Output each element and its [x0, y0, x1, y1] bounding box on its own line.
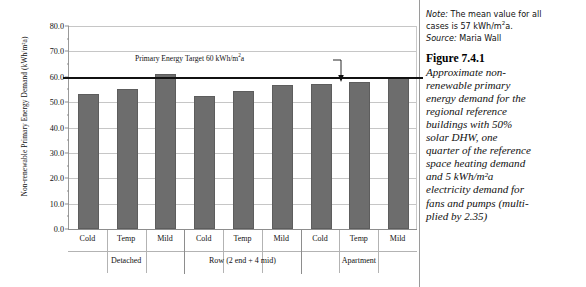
note-text-2-tail: a. — [505, 21, 513, 31]
y-tick-label-70.0: 70.0 — [50, 47, 64, 56]
bar — [194, 96, 215, 229]
caption-line: and 5 kWh/m²a — [426, 170, 580, 183]
target-label-text: Primary Energy Target 60 kWh/m — [135, 54, 238, 63]
x-axis-group-separator — [301, 230, 302, 274]
caption-line: buildings with 50% — [426, 118, 580, 131]
x-axis-label-cold-3: Cold — [184, 234, 223, 243]
y-tick-label-40.0: 40.0 — [50, 123, 64, 132]
y-tick-label-50.0: 50.0 — [50, 98, 64, 107]
bar — [311, 84, 332, 229]
x-axis-label-temp-7: Temp — [339, 234, 378, 243]
bar — [117, 89, 138, 229]
plot-area: 0.010.020.030.040.050.060.070.080.0 Prim… — [68, 26, 417, 229]
y-axis-title: Non-renewable Primary Energy Demand (kWh… — [20, 7, 29, 227]
caption-panel: Note: The mean value for all cases is 57… — [419, 0, 586, 287]
caption-line: electricity demand for — [426, 183, 580, 196]
x-axis-group-separator — [184, 230, 185, 274]
chart-panel: Non-renewable Primary Energy Demand (kWh… — [0, 0, 418, 287]
source-line: Source: Maria Wall — [426, 32, 580, 44]
x-axis-label-mild-5: Mild — [262, 234, 301, 243]
x-axis-group-label: Detached — [68, 256, 184, 265]
note-label: Note: — [426, 9, 448, 19]
target-arrow-icon — [332, 59, 352, 84]
y-tick-label-30.0: 30.0 — [50, 148, 64, 157]
caption-line: fans and pumps (multi- — [426, 197, 580, 210]
bar — [78, 94, 99, 229]
caption-line: energy demand for the — [426, 92, 580, 105]
bar — [155, 74, 176, 229]
bar — [388, 78, 409, 229]
caption-line: plied by 2.35) — [426, 210, 580, 223]
primary-energy-target-line — [63, 77, 423, 79]
y-tick-label-0.0: 0.0 — [54, 225, 64, 234]
x-axis-label-mild-8: Mild — [378, 234, 417, 243]
x-axis-group-label: Row (2 end + 4 mid) — [184, 256, 300, 265]
bar — [233, 91, 254, 229]
x-axis-group-labels: DetachedRow (2 end + 4 mid)Apartment — [68, 251, 417, 273]
primary-energy-target-label: Primary Energy Target 60 kWh/m2a — [135, 54, 244, 63]
x-axis-group-label: Apartment — [301, 256, 417, 265]
bar — [272, 85, 293, 229]
figure-container: Non-renewable Primary Energy Demand (kWh… — [0, 0, 586, 287]
y-tick-label-80.0: 80.0 — [50, 22, 64, 31]
x-axis-label-cold-6: Cold — [301, 234, 340, 243]
figure-caption: Approximate non-renewable primaryenergy … — [426, 66, 580, 223]
x-axis-category-labels: ColdTempMildColdTempMildColdTempMild — [68, 229, 417, 251]
caption-line: quarter of the reference — [426, 144, 580, 157]
figure-number: Figure 7.4.1 — [426, 52, 580, 65]
target-label-tail: a — [241, 54, 244, 63]
x-axis-label-temp-1: Temp — [107, 234, 146, 243]
x-axis-label-cold-0: Cold — [68, 234, 107, 243]
note-line-1: Note: The mean value for all — [426, 8, 580, 20]
note-text-1: The mean value for all — [448, 9, 542, 19]
y-tick-label-60.0: 60.0 — [50, 72, 64, 81]
y-tick-label-20.0: 20.0 — [50, 174, 64, 183]
y-tick-label-10.0: 10.0 — [50, 199, 64, 208]
bar — [349, 82, 370, 229]
source-label: Source: — [426, 33, 457, 43]
x-axis-label-temp-4: Temp — [223, 234, 262, 243]
caption-line: solar DHW, one — [426, 131, 580, 144]
note-line-2: cases is 57 kWh/m2a. — [426, 20, 580, 32]
source-text: Maria Wall — [457, 33, 502, 43]
note-text-2: cases is 57 kWh/m — [426, 21, 502, 31]
caption-line: renewable primary — [426, 79, 580, 92]
caption-line: regional reference — [426, 105, 580, 118]
caption-line: Approximate non- — [426, 66, 580, 79]
caption-line: space heating demand — [426, 157, 580, 170]
x-axis-label-mild-2: Mild — [146, 234, 185, 243]
note-block: Note: The mean value for all cases is 57… — [426, 8, 580, 45]
